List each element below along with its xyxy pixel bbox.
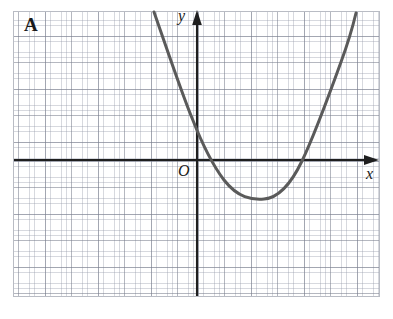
- panel-label: A: [24, 15, 38, 34]
- y-axis-label: y: [178, 8, 185, 24]
- axes-and-curve-overlay: [0, 0, 393, 319]
- x-axis-label: x: [366, 166, 373, 182]
- y-axis-arrowhead: [192, 10, 202, 25]
- origin-label: O: [178, 163, 190, 179]
- x-axis-arrowhead: [364, 155, 379, 165]
- graph-figure: A O y x: [0, 0, 393, 319]
